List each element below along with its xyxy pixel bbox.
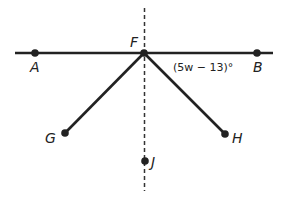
point-A bbox=[31, 49, 39, 57]
angle-annotation: (5w − 13)° bbox=[173, 61, 233, 74]
point-G bbox=[61, 129, 69, 137]
label-H: H bbox=[232, 130, 243, 146]
point-J bbox=[141, 157, 149, 165]
point-B bbox=[253, 49, 261, 57]
point-H bbox=[221, 130, 229, 138]
label-G: G bbox=[45, 130, 56, 146]
point-F bbox=[140, 49, 148, 57]
label-B: B bbox=[253, 59, 263, 75]
label-J: J bbox=[148, 154, 155, 170]
label-F: F bbox=[130, 34, 139, 50]
segment-FG bbox=[65, 53, 144, 133]
label-A: A bbox=[29, 59, 40, 75]
geometry-diagram: F A B G H J (5w − 13)° bbox=[0, 0, 287, 206]
